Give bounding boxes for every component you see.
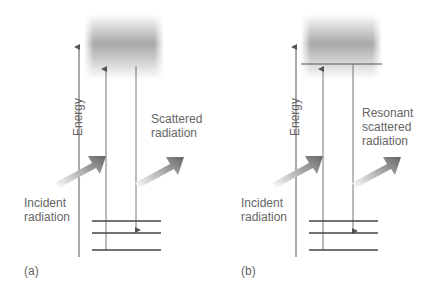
scattered-radiation-arrow xyxy=(135,157,184,188)
incident-label: Incident radiation xyxy=(24,196,70,224)
incident-radiation-arrow xyxy=(272,156,323,188)
panel-label-a: (a) xyxy=(24,264,39,278)
incident-label: Incident radiation xyxy=(241,196,287,224)
scattered-label: Scattered radiation xyxy=(151,112,202,140)
resonant-scattered-label: Resonant scattered radiation xyxy=(362,106,413,148)
axis-label-energy: Energy xyxy=(288,87,302,147)
panel-label-b: (b) xyxy=(241,264,256,278)
scattered-radiation-arrow xyxy=(352,157,401,188)
incident-radiation-arrow xyxy=(55,156,106,188)
axis-label-energy: Energy xyxy=(71,87,85,147)
